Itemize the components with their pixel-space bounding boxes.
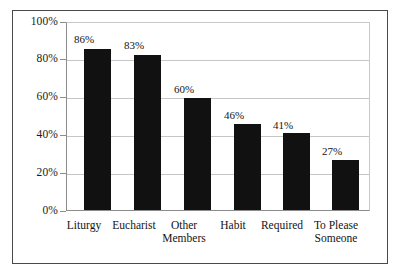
bar-other-members[interactable] [184,98,211,210]
y-tick-label-20: 20% [37,167,58,179]
x-label-to-please-someone: To Please Someone [302,219,370,245]
bar-chart-figure: 100% 80% 60% 40% 20% 0% 86% 83% 60% 46% … [0,0,400,276]
bar-habit[interactable] [234,124,261,210]
y-tick-label-0: 0% [42,205,58,217]
x-axis-category-labels: Liturgy Eucharist Other Members Habit Re… [0,216,400,260]
y-tick-label-60: 60% [37,91,58,103]
bar-value-to-please-someone: 27% [312,146,352,157]
bar-value-eucharist: 83% [114,40,154,51]
bar-to-please-someone[interactable] [332,160,359,210]
bar-liturgy[interactable] [84,49,111,210]
bar-required[interactable] [283,133,310,210]
bar-value-other-members: 60% [164,84,204,95]
y-tick-mark-0 [60,211,66,212]
y-tick-label-100: 100% [31,16,58,28]
gridline-60 [67,98,369,99]
gridline-40 [67,136,369,137]
bar-value-habit: 46% [214,110,254,121]
y-tick-label-40: 40% [37,129,58,141]
gridline-20 [67,174,369,175]
x-label-liturgy: Liturgy [57,219,111,232]
y-tick-label-80: 80% [37,53,58,65]
bar-eucharist[interactable] [134,55,161,210]
gridline-80 [67,60,369,61]
bar-value-required: 41% [263,120,303,131]
bar-value-liturgy: 86% [64,34,104,45]
